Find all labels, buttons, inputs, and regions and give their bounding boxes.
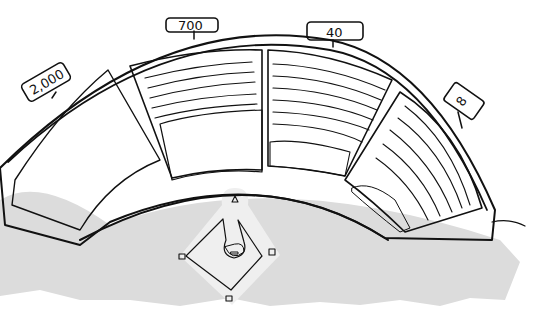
stadium-rim-inner-line — [8, 45, 487, 210]
sign-2000: 2,000 — [20, 61, 72, 102]
section-40 — [268, 50, 392, 176]
sign-label-40: 40 — [326, 25, 343, 40]
sign-40: 40 — [307, 22, 363, 47]
sign-label-700: 700 — [178, 18, 203, 33]
sign-label-8: 8 — [453, 93, 470, 108]
sign-8: 8 — [443, 82, 485, 128]
sign-700: 700 — [166, 18, 218, 39]
outfield-right-hill — [492, 221, 525, 226]
stadium-illustration: 2,000 700 40 8 — [0, 0, 539, 324]
